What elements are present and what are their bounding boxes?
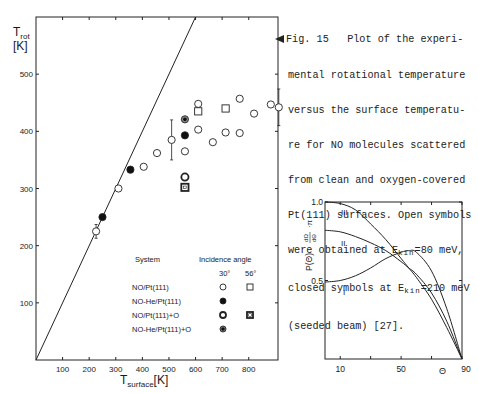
data-points [93, 95, 283, 235]
figure: 100200300400500600700800100200300400500 … [0, 0, 478, 393]
ring-circle-marker [181, 173, 188, 180]
legend-entry-label: NO-He/Pt(111) [132, 297, 181, 306]
open-circle-marker [222, 129, 229, 136]
open-square-marker [247, 284, 253, 290]
figure-caption: Fig. 15 Plot of the experi- mental rotat… [275, 11, 475, 356]
caption-line: mental rotational temperature [275, 70, 475, 82]
caption-line: versus the surface temperatu- [275, 105, 475, 117]
open-circle-marker [209, 139, 216, 146]
open-square-marker [195, 108, 202, 115]
y-axis-unit: [K] [13, 39, 28, 53]
open-circle-marker [195, 100, 202, 107]
open-circle-marker [236, 95, 243, 102]
caption-line: were obtained at Ekin=80 meV, [275, 245, 475, 260]
x-axis-label: Tsurface[K] [120, 373, 168, 389]
caption-line: closed symbols at Ekin=210 meV [275, 283, 475, 298]
open-circle-marker [267, 101, 274, 108]
legend-entry-label: NO/Pt(111)+O [132, 311, 179, 320]
x-tick-label: 100 [56, 365, 70, 374]
ring-square-marker [247, 312, 253, 318]
y-tick-label: 200 [20, 242, 34, 251]
legend-angle-56: 56° [245, 269, 256, 278]
open-circle-marker [195, 126, 202, 133]
small-x-tick-label: 10 [335, 364, 345, 374]
legend-angle-30: 30° [219, 269, 230, 278]
caption-line: re for NO molecules scattered [275, 140, 475, 152]
y-tick-label: 100 [20, 299, 34, 308]
open-circle-marker [220, 284, 226, 290]
legend-system-title: System [135, 255, 160, 264]
open-circle-marker [93, 228, 100, 235]
open-circle-marker [250, 110, 257, 117]
caption-line: Pt(111) surfaces. Open symbols [275, 210, 475, 222]
legend-entry-label: NO/Pt(111) [132, 283, 169, 292]
y-tick-label: 500 [20, 70, 34, 79]
caption-line: (seeded beam) [27]. [275, 321, 475, 333]
filled-circle-marker [220, 298, 226, 304]
x-tick-label: 200 [83, 365, 97, 374]
x-tick-label: 800 [242, 365, 256, 374]
open-circle-marker [140, 163, 147, 170]
legend-symbols [220, 284, 253, 332]
x-tick-label: 400 [136, 365, 150, 374]
open-circle-marker [115, 185, 122, 192]
caption-line: Fig. 15 Plot of the experi- [275, 34, 475, 46]
open-circle-marker [181, 148, 188, 155]
filled-circle-marker [181, 132, 188, 139]
legend: System Incidence angle 30° 56° NO/Pt(111… [132, 255, 256, 334]
open-square-marker [222, 105, 229, 112]
open-circle-marker [168, 136, 175, 143]
open-circle-marker [153, 149, 160, 156]
x-tick-label: 700 [215, 365, 229, 374]
legend-angle-title: Incidence angle [199, 255, 252, 264]
y-tick-label: 300 [20, 185, 34, 194]
main-axis-ticks: 100200300400500600700800100200300400500 [20, 17, 278, 374]
open-circle-marker [236, 129, 243, 136]
main-plot-frame [36, 17, 278, 360]
small-x-tick-label: 90 [461, 364, 471, 374]
y-tick-label: 400 [20, 127, 34, 136]
pointer-arrow-icon [275, 35, 284, 43]
filled-circle-marker [99, 213, 106, 220]
small-x-axis-label: Θ [439, 366, 446, 376]
legend-entry-label: NO-He/Pt(111)+O [132, 325, 191, 334]
ring-circle-marker [220, 312, 226, 318]
caption-line: from clean and oxygen-covered [275, 175, 475, 187]
ring-square-marker [181, 184, 188, 191]
small-x-tick-label: 50 [396, 364, 406, 374]
x-tick-label: 600 [189, 365, 203, 374]
filled-circle-marker [127, 166, 134, 173]
